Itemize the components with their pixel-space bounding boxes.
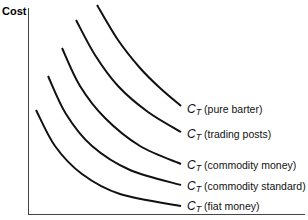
cost-curve	[62, 48, 181, 164]
curve-symbol: CT	[187, 127, 201, 141]
cost-curve	[97, 5, 181, 106]
curve-symbol: CT	[187, 199, 201, 213]
curve-description: (trading posts)	[201, 128, 271, 140]
cost-curve	[48, 76, 181, 185]
curve-label: CT (commodity money)	[187, 158, 296, 173]
curve-description: (fiat money)	[201, 200, 259, 212]
curve-label: CT (commodity standard)	[187, 179, 306, 194]
curve-label: CT (pure barter)	[187, 102, 262, 117]
curve-description: (pure barter)	[201, 103, 262, 115]
curve-symbol: CT	[187, 102, 201, 116]
curve-label: CT (fiat money)	[187, 199, 260, 214]
curve-description: (commodity money)	[201, 159, 296, 171]
curves-group	[36, 5, 181, 206]
y-axis-label: Cost	[2, 5, 26, 17]
curve-symbol: CT	[187, 158, 201, 172]
cost-curve	[76, 20, 181, 132]
curve-description: (commodity standard)	[201, 180, 305, 192]
curve-symbol: CT	[187, 179, 201, 193]
curve-label: CT (trading posts)	[187, 127, 271, 142]
